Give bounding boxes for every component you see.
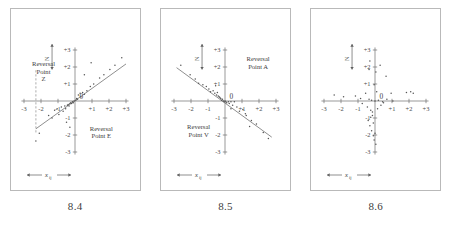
reversal-point-e-line: Reversal — [89, 125, 112, 132]
data-point — [376, 91, 378, 93]
data-point — [383, 102, 385, 104]
data-point — [373, 122, 375, 124]
data-point — [62, 110, 64, 112]
data-point — [56, 108, 58, 110]
data-point — [35, 140, 37, 142]
data-point — [410, 91, 412, 93]
y-tick-label: +1 — [364, 80, 371, 87]
data-point — [65, 108, 67, 110]
data-point — [256, 123, 258, 125]
x-tick-label: +3 — [423, 105, 430, 112]
data-point — [386, 76, 388, 78]
data-point — [245, 115, 247, 117]
n-axis-indicator-label: N — [345, 56, 351, 61]
data-point — [65, 122, 67, 124]
data-point — [76, 99, 78, 101]
x-axis-label-text: x — [44, 171, 48, 178]
x-tick-label: +2 — [105, 105, 112, 112]
data-point — [369, 125, 371, 127]
data-point — [38, 133, 40, 135]
data-point — [251, 120, 253, 122]
data-point — [71, 103, 73, 105]
reversal-point-z-annotation: ReversalPointZ — [32, 60, 55, 82]
figure-panel-8-5: -3-2-1+1+2+3+3+2+1-1-2-30NxijReversalPoi… — [150, 0, 300, 212]
data-point — [208, 88, 210, 90]
reversal-point-v-line: Point V — [189, 131, 209, 138]
data-point — [222, 99, 224, 101]
data-point — [109, 69, 111, 71]
data-point — [228, 103, 230, 105]
data-point — [372, 111, 374, 113]
x-tick-label: +2 — [406, 105, 413, 112]
data-point — [228, 101, 230, 103]
figure-panel-8-6: -3-2-1+1+2+3+3+2+1-1-2-30Nxij8.6 — [301, 0, 451, 212]
data-point — [194, 78, 196, 80]
data-point — [60, 106, 62, 108]
data-point — [48, 115, 50, 117]
x-axis-label-text: x — [344, 171, 348, 178]
x-tick-label: -1 — [205, 105, 210, 112]
data-point — [90, 62, 92, 64]
data-point — [372, 115, 374, 117]
data-point — [370, 116, 372, 118]
panel-caption: 8.6 — [368, 200, 383, 212]
data-point — [374, 84, 376, 86]
data-point — [103, 74, 105, 76]
data-point — [391, 93, 393, 95]
data-point — [234, 101, 236, 103]
data-point — [236, 106, 238, 108]
panel-caption: 8.4 — [68, 200, 83, 212]
y-tick-label: +3 — [214, 46, 221, 53]
data-point — [232, 105, 234, 107]
n-indicator-arrow-up-icon — [351, 44, 354, 47]
x-axis-label-subscript: ij — [349, 175, 351, 180]
data-point — [230, 108, 232, 110]
data-point — [210, 91, 212, 93]
x-tick-label: +3 — [122, 105, 129, 112]
data-point — [75, 99, 77, 101]
data-point — [202, 84, 204, 86]
x-tick-label: -2 — [188, 105, 193, 112]
x-tick-label: +2 — [256, 105, 263, 112]
data-point — [64, 105, 66, 107]
reversal-point-e-annotation: ReversalPoint E — [89, 125, 112, 140]
data-point — [67, 104, 69, 106]
panel-border: -3-2-1+1+2+3+3+2+1-1-2-30NxijReversalPoi… — [10, 8, 141, 191]
data-point — [378, 99, 380, 101]
x-axis-label-arrow-left-icon — [177, 173, 180, 176]
data-point — [362, 103, 364, 105]
data-point — [114, 65, 116, 67]
data-point — [82, 92, 84, 94]
y-tick-label: -3 — [65, 148, 70, 155]
data-point — [370, 110, 372, 112]
data-point — [226, 102, 228, 104]
y-tick-label: -2 — [215, 131, 220, 138]
data-point — [99, 77, 101, 79]
data-point — [83, 74, 85, 76]
n-indicator-arrow-down-icon — [351, 67, 354, 70]
data-point — [239, 110, 241, 112]
data-point — [268, 138, 270, 140]
data-point — [220, 98, 222, 100]
x-tick-label: +3 — [273, 105, 280, 112]
reversal-point-v-annotation: ReversalPoint V — [187, 123, 210, 138]
reversal-point-e-line: Point E — [91, 132, 111, 139]
x-axis-label-arrow-left-icon — [327, 173, 330, 176]
data-point — [392, 100, 394, 102]
x-tick-label: +1 — [88, 105, 95, 112]
data-point — [73, 100, 75, 102]
reversal-point-a-annotation: ReversalPoint A — [247, 55, 270, 70]
x-tick-label: -1 — [356, 105, 361, 112]
panel-border: -3-2-1+1+2+3+3+2+1-1-2-30NxijReversalPoi… — [160, 8, 291, 191]
n-indicator-arrow-down-icon — [50, 67, 53, 70]
data-point — [69, 127, 71, 129]
y-tick-label: +1 — [214, 80, 221, 87]
data-point — [368, 120, 370, 122]
data-point — [375, 71, 377, 73]
data-point — [68, 105, 70, 107]
data-point — [381, 105, 383, 107]
n-indicator-arrow-up-icon — [50, 44, 53, 47]
data-point — [375, 100, 377, 102]
n-indicator-arrow-up-icon — [200, 44, 203, 47]
data-point — [406, 92, 408, 94]
